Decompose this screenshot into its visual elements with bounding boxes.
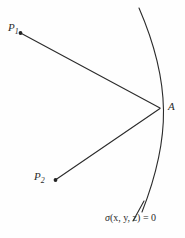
point-label-p1-subscript: 1 (15, 27, 19, 36)
ray-p1-a (22, 34, 161, 109)
point-p1-dot-icon (19, 31, 23, 35)
point-p2-dot-icon (54, 178, 58, 182)
implicit-surface-arc (139, 8, 164, 212)
geometry-figure: P1 P2 A σ(x, y, z) = 0 (0, 0, 185, 238)
point-label-p1: P1 (8, 22, 19, 35)
point-label-p2: P2 (34, 171, 45, 184)
surface-equation-label: σ(x, y, z) = 0 (105, 213, 156, 223)
point-label-p2-subscript: 2 (41, 176, 45, 185)
point-label-p1-base: P (8, 21, 15, 33)
point-label-a: A (168, 101, 175, 112)
ray-p2-a (56, 109, 160, 180)
figure-canvas (0, 0, 185, 238)
surface-equation-args: (x, y, z) = 0 (110, 212, 156, 223)
point-label-p2-base: P (34, 170, 41, 182)
